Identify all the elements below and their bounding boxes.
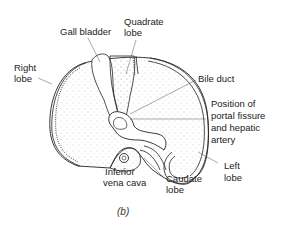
label-caudate-lobe-line1: Caudate bbox=[166, 173, 202, 184]
label-right-lobe-line1: Right bbox=[14, 62, 36, 73]
label-caudate-lobe-line2: lobe bbox=[166, 184, 184, 195]
label-quadrate-lobe-line1: Quadrate bbox=[124, 16, 164, 27]
inferior-vena-cava-shape bbox=[120, 154, 129, 163]
label-portal-line4: artery bbox=[211, 134, 235, 145]
figure-caption: (b) bbox=[117, 206, 129, 217]
label-portal-line2: portal fissure bbox=[211, 110, 265, 121]
label-gall-bladder: Gall bladder bbox=[60, 26, 111, 37]
label-left-lobe-line1: Left bbox=[224, 160, 240, 171]
label-right-lobe-line2: lobe bbox=[14, 73, 32, 84]
label-left-lobe-line2: lobe bbox=[224, 172, 242, 183]
label-inferior-vena-cava-line1: Inferior bbox=[105, 166, 135, 177]
label-quadrate-lobe-line2: lobe bbox=[124, 27, 142, 38]
label-inferior-vena-cava-line2: vena cava bbox=[103, 177, 146, 188]
label-portal-line3: and hepatic bbox=[211, 122, 260, 133]
label-bile-duct: Bile duct bbox=[198, 73, 234, 84]
label-portal-line1: Position of bbox=[211, 98, 255, 109]
